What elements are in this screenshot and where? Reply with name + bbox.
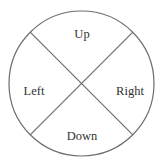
quadrant-label-right: Right (116, 84, 144, 98)
direction-circle-diagram: Up Left Right Down (0, 0, 163, 164)
quadrant-label-up: Up (74, 27, 89, 41)
quadrant-label-down: Down (67, 129, 98, 143)
quadrant-label-left: Left (24, 84, 45, 98)
